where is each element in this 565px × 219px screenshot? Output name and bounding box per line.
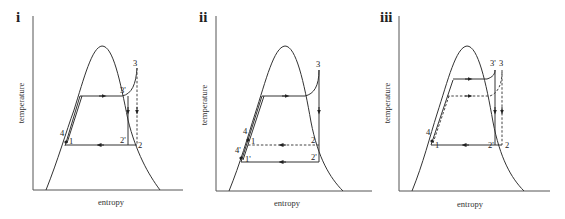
x-axis-label: entropy: [457, 199, 484, 209]
point-1: 1: [435, 140, 439, 150]
point-1-prime: 1': [245, 154, 251, 164]
panel-iii: iii temperature entropy 3' 3 2' 2 4 1: [380, 9, 550, 209]
point-2-prime: 2': [488, 140, 494, 150]
point-3-prime: 3': [120, 85, 126, 95]
point-1: 1: [251, 136, 255, 146]
point-2: 2: [311, 135, 315, 145]
point-3: 3: [499, 58, 503, 68]
point-2: 2: [138, 140, 142, 150]
superheat-curve: [305, 70, 319, 96]
x-axis-label: entropy: [274, 198, 301, 208]
panel-i: i temperature entropy 3 3' 2' 2 4 1: [16, 9, 183, 207]
point-1: 1: [69, 136, 73, 146]
x-axis-label: entropy: [98, 197, 125, 207]
point-3-prime: 3': [490, 58, 496, 68]
point-3: 3: [316, 59, 320, 69]
saturation-dome: [229, 46, 343, 191]
saturation-dome: [46, 46, 160, 190]
point-2-prime: 2': [311, 152, 317, 162]
y-axis-label: temperature: [382, 82, 392, 123]
panel-ii: ii temperature entropy 3 2 2' 4 1 4' 1': [199, 9, 372, 208]
superheat-curve-dashed: [490, 72, 502, 96]
point-4-prime: 4': [235, 145, 241, 155]
saturation-dome: [412, 46, 524, 191]
y-axis-label: temperature: [16, 82, 26, 123]
y-axis-label: temperature: [199, 84, 209, 125]
panel-label-ii: ii: [199, 9, 207, 25]
panel-label-i: i: [16, 9, 20, 25]
panel-label-iii: iii: [380, 9, 393, 25]
point-4: 4: [243, 126, 248, 136]
point-2: 2: [505, 140, 509, 150]
pump-line: [431, 80, 453, 145]
point-3: 3: [133, 58, 137, 68]
point-4: 4: [60, 128, 65, 138]
point-2-prime: 2': [120, 135, 126, 145]
superheat-curve-solid: [487, 70, 495, 79]
ts-diagram-figure: i temperature entropy 3 3' 2' 2 4 1 ii: [0, 0, 565, 219]
